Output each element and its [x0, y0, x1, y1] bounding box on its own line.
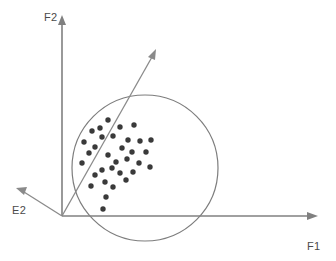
data-point [113, 159, 118, 164]
e1-vector-line [62, 57, 152, 216]
data-point [92, 144, 97, 149]
data-point [97, 125, 102, 130]
data-point [102, 179, 107, 184]
data-point [117, 124, 122, 129]
f1-axis-arrowhead [307, 212, 318, 220]
f1-axis-label: F1 [307, 240, 320, 252]
data-point [147, 164, 152, 169]
data-point [105, 152, 110, 157]
data-point [88, 183, 93, 188]
data-point [99, 134, 104, 139]
data-point [103, 194, 108, 199]
data-point [129, 149, 134, 154]
data-point [99, 167, 104, 172]
data-point [81, 139, 86, 144]
data-point [131, 122, 136, 127]
data-point [125, 137, 130, 142]
data-point [117, 170, 122, 175]
e2-vector-arrowhead [16, 187, 27, 195]
figure-canvas: F2 F1 E2 [0, 0, 336, 261]
data-point [137, 138, 142, 143]
data-point [130, 169, 135, 174]
data-point [143, 149, 148, 154]
f2-axis-arrowhead [58, 15, 66, 25]
data-point [86, 150, 91, 155]
e1-vector-arrowhead [148, 49, 156, 60]
data-point [109, 165, 114, 170]
data-point [148, 137, 153, 142]
data-point [119, 145, 124, 150]
data-point [92, 172, 97, 177]
f2-axis-label: F2 [44, 11, 57, 23]
data-point [89, 128, 94, 133]
data-point [110, 133, 115, 138]
data-point [110, 184, 115, 189]
data-point [79, 160, 84, 165]
data-point [136, 160, 141, 165]
e2-vector-line [24, 192, 62, 216]
e2-vector-label: E2 [12, 204, 26, 216]
cluster-outline-circle [72, 95, 218, 241]
data-point [123, 177, 128, 182]
data-point [100, 206, 105, 211]
data-point [124, 156, 129, 161]
data-point [105, 117, 110, 122]
pca-diagram: F2 F1 E2 [0, 0, 336, 261]
